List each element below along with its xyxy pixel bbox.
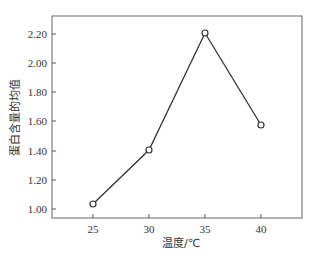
x-tick-label: 25 [88, 223, 100, 235]
y-axis-title: 蛋白含量的均值 [8, 79, 22, 156]
data-point-marker [202, 30, 208, 36]
y-tick-label: 1.80 [28, 86, 48, 98]
y-tick-label: 2.20 [28, 28, 48, 40]
y-tick-label: 1.20 [28, 174, 48, 186]
data-line [93, 33, 261, 204]
y-tick-label: 1.00 [28, 203, 48, 215]
data-point-marker [146, 147, 152, 153]
plot-frame [52, 16, 302, 218]
y-tick-label: 2.00 [28, 57, 48, 69]
y-tick-label: 1.40 [28, 145, 48, 157]
data-point-marker [90, 201, 96, 207]
x-tick-label: 40 [256, 223, 268, 235]
x-axis: 25 30 35 40 [88, 214, 268, 235]
x-tick-label: 30 [144, 223, 156, 235]
line-chart: 1.00 1.20 1.40 1.60 1.80 2.00 2.20 25 30… [0, 0, 312, 262]
x-axis-title: 温度/℃ [162, 236, 200, 250]
data-point-marker [258, 122, 264, 128]
y-tick-label: 1.60 [28, 115, 48, 127]
x-tick-label: 35 [200, 223, 212, 235]
